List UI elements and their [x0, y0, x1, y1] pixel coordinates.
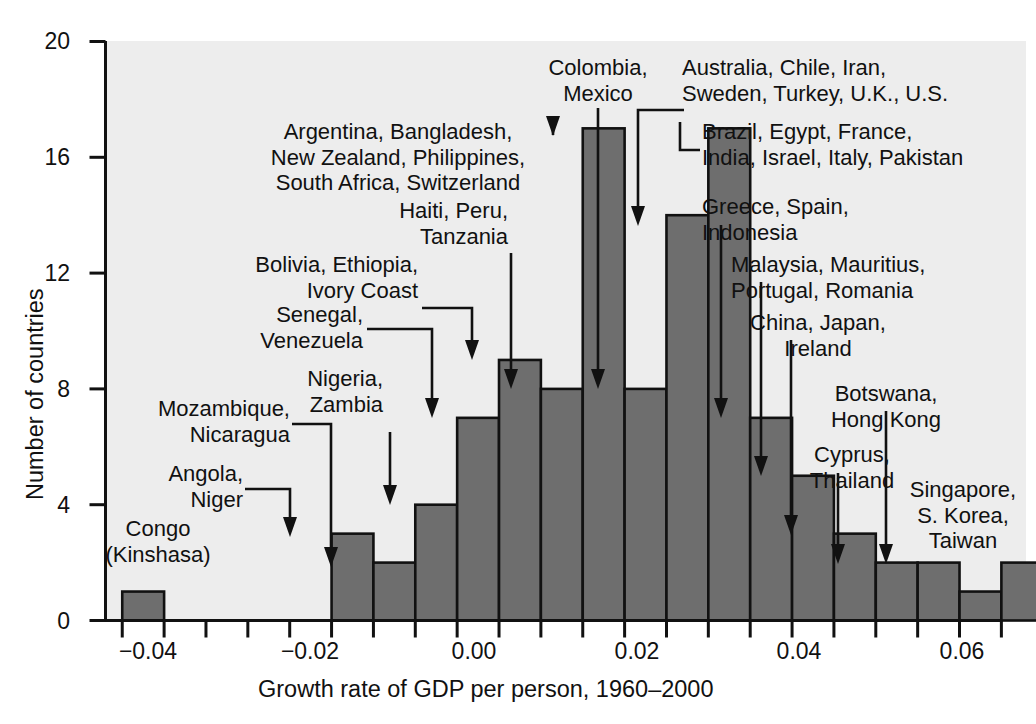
x-axis-ticks	[122, 621, 1001, 638]
annotation-line: Taiwan	[890, 528, 1036, 554]
leader-bolivia	[422, 308, 472, 346]
annotation-line: New Zealand, Philippines,	[243, 145, 553, 171]
x-axis-title: Growth rate of GDP per person, 1960–2000	[258, 676, 714, 703]
annotation-line: Ireland	[723, 336, 913, 362]
histogram-bar	[625, 389, 667, 621]
x-tick-label: −0.02	[250, 638, 370, 665]
annotation-line: Singapore,	[890, 477, 1036, 503]
histogram-bar	[373, 563, 415, 621]
annotation-greece: Greece, Spain,Indonesia	[702, 194, 952, 245]
x-tick-label: 0.02	[577, 638, 697, 665]
arrowhead-bolivia	[465, 340, 479, 360]
histogram-bar	[122, 592, 164, 621]
arrowhead-nigeria	[383, 485, 397, 505]
annotation-line: Niger	[85, 487, 243, 513]
annotation-line: Congo	[88, 516, 228, 542]
annotation-haiti: Haiti, Peru,Tanzania	[350, 198, 508, 249]
histogram-bar	[666, 215, 708, 620]
annotation-australia: Australia, Chile, Iran,Sweden, Turkey, U…	[682, 55, 1022, 106]
annotation-line: China, Japan,	[723, 310, 913, 336]
annotation-line: Portugal, Romania	[731, 278, 1021, 304]
bottom-edge	[0, 716, 1036, 724]
histogram-bar	[541, 389, 583, 621]
annotation-line: Tanzania	[350, 224, 508, 250]
leader-mozambique	[292, 424, 331, 553]
histogram-bar	[457, 418, 499, 621]
left-edge	[0, 0, 4, 724]
annotation-bolivia: Bolivia, Ethiopia,Ivory Coast	[205, 252, 418, 303]
annotation-line: Greece, Spain,	[702, 194, 952, 220]
annotation-line: Cyprus,	[772, 442, 932, 468]
annotation-line: India, Israel, Italy, Pakistan	[702, 145, 1032, 171]
annotation-congo: Congo(Kinshasa)	[88, 516, 228, 567]
chart-canvas	[0, 0, 1036, 724]
annotation-brazil: Brazil, Egypt, France,India, Israel, Ita…	[702, 119, 1032, 170]
arrowhead-australia	[631, 206, 645, 226]
annotation-line: Angola,	[85, 461, 243, 487]
annotation-line: Zambia	[255, 392, 383, 418]
annotation-line: Senegal,	[205, 302, 363, 328]
x-tick-label: −0.04	[88, 638, 208, 665]
annotation-colombia: Colombia,Mexico	[508, 55, 688, 106]
arrowhead-angola	[283, 517, 297, 537]
annotation-argentina: Argentina, Bangladesh,New Zealand, Phili…	[243, 119, 553, 196]
histogram-bar	[876, 563, 918, 621]
annotation-line: S. Korea,	[890, 503, 1036, 529]
annotation-singapore: Singapore,S. Korea,Taiwan	[890, 477, 1036, 554]
arrowhead-senegal	[425, 398, 439, 418]
annotation-line: Indonesia	[702, 220, 952, 246]
annotation-nigeria: Nigeria,Zambia	[255, 366, 383, 417]
annotation-line: Haiti, Peru,	[350, 198, 508, 224]
annotation-line: (Kinshasa)	[88, 542, 228, 568]
y-axis-title: Number of countries	[22, 288, 49, 500]
annotation-line: Australia, Chile, Iran,	[682, 55, 1022, 81]
leader-brazil	[680, 122, 700, 150]
annotation-china: China, Japan,Ireland	[723, 310, 913, 361]
histogram-bar	[332, 534, 374, 621]
leader-angola	[245, 489, 290, 523]
annotation-line: Argentina, Bangladesh,	[243, 119, 553, 145]
y-tick-label: 20	[8, 28, 70, 55]
annotation-line: Botswana,	[800, 381, 972, 407]
histogram-bar	[792, 476, 834, 621]
leader-australia	[638, 110, 684, 212]
annotation-line: South Africa, Switzerland	[243, 170, 553, 196]
annotation-angola: Angola,Niger	[85, 461, 243, 512]
annotation-line: Malaysia, Mauritius,	[731, 252, 1021, 278]
annotation-line: Brazil, Egypt, France,	[702, 119, 1032, 145]
histogram-bar	[415, 505, 457, 621]
histogram-bar	[499, 360, 541, 621]
annotation-line: Nicaragua	[110, 422, 290, 448]
y-tick-label: 16	[8, 144, 70, 171]
x-tick-label: 0.04	[739, 638, 859, 665]
annotation-botswana: Botswana,Hong Kong	[800, 381, 972, 432]
histogram-bar	[918, 563, 960, 621]
annotation-senegal: Senegal,Venezuela	[205, 302, 363, 353]
annotation-line: Venezuela	[205, 328, 363, 354]
x-tick-label: 0.06	[902, 638, 1022, 665]
annotation-line: Hong Kong	[800, 407, 972, 433]
annotation-malaysia: Malaysia, Mauritius,Portugal, Romania	[731, 252, 1021, 303]
annotation-line: Colombia,	[508, 55, 688, 81]
x-tick-label: 0.00	[414, 638, 534, 665]
histogram-bar	[1001, 563, 1036, 621]
histogram-bar	[960, 592, 1002, 621]
annotation-line: Mexico	[508, 81, 688, 107]
histogram-bar	[583, 128, 625, 620]
annotation-line: Bolivia, Ethiopia,	[205, 252, 418, 278]
annotation-line: Ivory Coast	[205, 278, 418, 304]
annotation-line: Nigeria,	[255, 366, 383, 392]
y-tick-label: 12	[8, 260, 70, 287]
y-tick-label: 0	[8, 608, 70, 635]
annotation-line: Sweden, Turkey, U.K., U.S.	[682, 81, 1022, 107]
